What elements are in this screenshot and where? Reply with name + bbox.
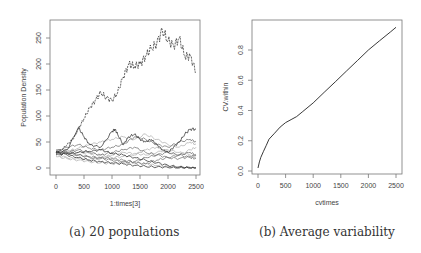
x-tick-label: 1500 [132,183,148,190]
y-tick-label: 0 [35,166,42,170]
series-group [56,28,196,168]
y-axis: 050100150200250 [35,32,50,170]
y-tick-label: 150 [35,84,42,96]
figure: 050010001500200025001:times[3]0501001502… [0,0,421,253]
y-tick-label: 0.4 [237,106,244,116]
plot-frame [252,20,402,174]
x-tick-label: 0 [256,182,260,189]
y-axis: 0.00.20.40.60.8 [237,45,252,176]
x-tick-label: 500 [280,182,292,189]
x-tick-label: 0 [54,183,58,190]
series-group [258,27,396,168]
x-axis: 05001000150020002500 [54,175,204,190]
y-tick-label: 250 [35,32,42,44]
y-axis-label: CV.within [222,82,229,111]
caption-b: (b) Average variability [259,225,395,239]
y-tick-label: 0.0 [237,166,244,176]
chart-population-density: 050010001500200025001:times[3]0501001502… [20,20,204,208]
series-line-CV.within [258,27,396,168]
x-tick-label: 1000 [104,183,120,190]
y-axis-label: Population Density [20,68,28,127]
x-tick-label: 500 [78,183,90,190]
y-tick-label: 100 [35,110,42,122]
x-tick-label: 2000 [160,183,176,190]
y-tick-label: 0.6 [237,75,244,85]
x-axis: 05001000150020002500 [256,174,404,189]
x-tick-label: 2500 [388,182,404,189]
y-tick-label: 200 [35,58,42,70]
x-axis-label: 1:times[3] [110,200,140,208]
series-line-pop1 [56,28,196,152]
y-tick-label: 0.8 [237,45,244,55]
x-axis-label: cvtimes [315,199,339,206]
x-tick-label: 1500 [333,182,349,189]
x-tick-label: 2000 [361,182,377,189]
series-line-pop5 [56,137,196,152]
x-tick-label: 2500 [188,183,204,190]
x-tick-label: 1000 [305,182,321,189]
caption-a: (a) 20 populations [69,225,180,239]
y-tick-label: 0.2 [237,136,244,146]
y-tick-label: 50 [35,138,42,146]
chart-cv-within: 05001000150020002500cvtimes0.00.20.40.60… [222,20,404,206]
